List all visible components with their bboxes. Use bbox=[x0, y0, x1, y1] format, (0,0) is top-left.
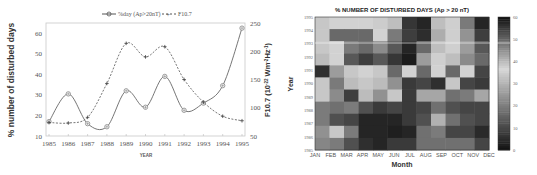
month-tick-label: JAN bbox=[310, 152, 320, 158]
heatmap-cell bbox=[330, 90, 345, 102]
heatmap-cell bbox=[315, 53, 330, 65]
heatmap-cell bbox=[402, 102, 417, 114]
heatmap-cell bbox=[330, 138, 345, 150]
year-tick-label: 1994 bbox=[304, 28, 314, 33]
left-chart-panel: %day (Ap>20nT) + F10.7 10203040506050100… bbox=[0, 0, 280, 175]
heatmap-cell bbox=[388, 126, 403, 138]
heatmap-cell bbox=[373, 126, 388, 138]
heatmap-cell bbox=[417, 17, 432, 29]
x-tick-label: 1988 bbox=[100, 140, 115, 148]
heatmap-cell bbox=[315, 114, 330, 126]
heatmap-cell bbox=[388, 17, 403, 29]
x-tick-label: 1990 bbox=[139, 140, 154, 148]
x-tick-label: 1985 bbox=[42, 140, 57, 148]
y2-tick-label: 100 bbox=[250, 104, 261, 112]
heatmap-cell bbox=[402, 29, 417, 41]
x-tick-label: 1986 bbox=[61, 140, 76, 148]
heatmap-cell bbox=[344, 17, 359, 29]
colorbar-tick-label: 60 bbox=[513, 15, 518, 20]
heatmap-cell bbox=[460, 102, 475, 114]
heatmap-cell bbox=[402, 53, 417, 65]
heatmap-cell bbox=[373, 102, 388, 114]
heatmap-cell bbox=[402, 126, 417, 138]
heatmap-cell bbox=[402, 114, 417, 126]
heatmap-cell bbox=[431, 114, 446, 126]
heatmap-cell bbox=[475, 77, 490, 89]
heatmap-cell bbox=[460, 114, 475, 126]
heatmap-cell bbox=[460, 65, 475, 77]
colorbar-tick-label: 20 bbox=[513, 103, 518, 108]
heatmap-cell bbox=[373, 17, 388, 29]
x-tick-label: 1989 bbox=[119, 140, 134, 148]
heatmap-cell bbox=[475, 138, 490, 150]
year-tick-label: 1986 bbox=[304, 135, 314, 140]
month-tick-label: DEC bbox=[483, 152, 495, 158]
heatmap-cell bbox=[344, 29, 359, 41]
heatmap-cell bbox=[475, 17, 490, 29]
heatmap-cell bbox=[431, 102, 446, 114]
heatmap-cell bbox=[344, 65, 359, 77]
month-tick-label: AUG bbox=[420, 152, 432, 158]
heatmap-cell bbox=[446, 17, 461, 29]
heatmap-cell bbox=[417, 126, 432, 138]
heatmap-cell bbox=[388, 114, 403, 126]
y2-tick-label: 200 bbox=[250, 48, 261, 56]
plus-marker-icon bbox=[240, 119, 244, 123]
heatmap-cell bbox=[460, 29, 475, 41]
heatmap-cell bbox=[460, 90, 475, 102]
month-tick-label: MAR bbox=[341, 152, 353, 158]
heatmap-cell bbox=[475, 53, 490, 65]
year-tick-label: 1990 bbox=[304, 81, 314, 86]
y2-axis-label: F10.7 (10-22 Wm-2Hz-1) bbox=[263, 42, 272, 117]
heatmap-cell bbox=[402, 17, 417, 29]
heatmap-title: % NUMBER OF DISTURBED DAYS (Ap > 20 nT) bbox=[335, 7, 469, 13]
heatmap-cell bbox=[417, 29, 432, 41]
heatmap-cell bbox=[330, 65, 345, 77]
x-tick-label: 1987 bbox=[81, 140, 96, 148]
plus-marker-icon bbox=[105, 82, 109, 86]
heatmap-cell bbox=[330, 102, 345, 114]
heatmap-cell bbox=[330, 17, 345, 29]
month-tick-label: APR bbox=[357, 152, 368, 158]
heatmap-cell bbox=[344, 126, 359, 138]
heatmap-cell bbox=[417, 90, 432, 102]
heatmap-cell bbox=[373, 65, 388, 77]
colorbar-tick-label: 0 bbox=[513, 148, 516, 153]
heatmap-cell bbox=[475, 102, 490, 114]
axis-ticks: 1020304050605010015020025019851986198719… bbox=[35, 20, 261, 149]
series-line bbox=[49, 43, 242, 124]
x-tick-label: 1993 bbox=[196, 140, 211, 148]
heatmap-cell bbox=[359, 138, 374, 150]
heatmap-cell bbox=[388, 53, 403, 65]
month-tick-label: SEP bbox=[436, 152, 447, 158]
heatmap-cell bbox=[315, 17, 330, 29]
plus-marker-icon bbox=[124, 42, 128, 46]
month-tick-label: JUL bbox=[405, 152, 415, 158]
x-tick-label: 1992 bbox=[177, 140, 192, 148]
heatmap-cell bbox=[373, 138, 388, 150]
heatmap-cell bbox=[315, 77, 330, 89]
heatmap-cell bbox=[417, 114, 432, 126]
heatmap-cell bbox=[359, 17, 374, 29]
heatmap-cell bbox=[344, 77, 359, 89]
y2-tick-label: 50 bbox=[250, 133, 258, 141]
heatmap-cell bbox=[460, 53, 475, 65]
month-tick-label: OCT bbox=[452, 152, 464, 158]
heatmap-cell bbox=[446, 77, 461, 89]
heatmap-cell bbox=[359, 126, 374, 138]
heatmap-chart: % NUMBER OF DISTURBED DAYS (Ap > 20 nT) … bbox=[280, 0, 537, 175]
heatmap-cell bbox=[359, 53, 374, 65]
heatmap-cell bbox=[344, 53, 359, 65]
heatmap-cell bbox=[388, 77, 403, 89]
y-tick-label: 50 bbox=[35, 50, 43, 58]
heatmap-cell bbox=[446, 138, 461, 150]
heatmap-cell bbox=[373, 114, 388, 126]
heatmap-cell bbox=[330, 53, 345, 65]
heatmap-cell bbox=[315, 126, 330, 138]
year-tick-label: 1988 bbox=[304, 108, 314, 113]
y2-tick-label: 250 bbox=[250, 20, 261, 28]
heatmap-cell bbox=[431, 17, 446, 29]
heatmap-cell bbox=[344, 102, 359, 114]
heatmap-cell bbox=[431, 90, 446, 102]
heatmap-x-label: Month bbox=[392, 161, 413, 168]
